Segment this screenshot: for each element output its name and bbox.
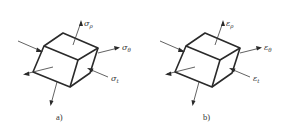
caption-a: a) bbox=[56, 112, 63, 122]
panel-a: σρ σθ σt a) bbox=[18, 19, 131, 122]
label-epsilon-t: εt bbox=[253, 74, 260, 84]
label-sigma-theta: σθ bbox=[122, 43, 131, 53]
stress-strain-element-figure: σρ σθ σt a) ερ εθ εt b) bbox=[0, 0, 284, 129]
panel-b: ερ εθ εt b) bbox=[160, 19, 272, 122]
strain-element-cube bbox=[160, 20, 262, 106]
label-sigma-rho: σρ bbox=[84, 19, 93, 30]
stress-element-cube bbox=[18, 20, 120, 106]
caption-b: b) bbox=[203, 112, 210, 122]
label-sigma-t: σt bbox=[111, 74, 119, 84]
label-epsilon-theta: εθ bbox=[264, 43, 272, 53]
label-epsilon-rho: ερ bbox=[226, 19, 234, 30]
